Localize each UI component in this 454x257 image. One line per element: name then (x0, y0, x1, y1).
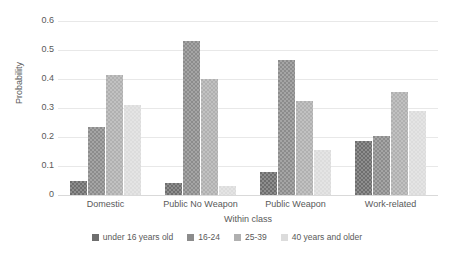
bar[interactable] (124, 105, 141, 195)
legend-item[interactable]: 40 years and older (281, 232, 362, 242)
bar[interactable] (70, 181, 87, 196)
x-axis-title: Within class (58, 214, 438, 224)
y-axis-tick-label: 0.2 (10, 132, 54, 141)
legend: under 16 years old16-2425-3940 years and… (0, 232, 454, 242)
legend-label: 40 years and older (292, 232, 362, 242)
legend-swatch-icon (187, 234, 194, 241)
x-axis-tick-label: Domestic (58, 199, 153, 209)
y-axis-tick-label: 0.3 (10, 103, 54, 112)
bar[interactable] (373, 136, 390, 195)
legend-item[interactable]: 16-24 (187, 232, 220, 242)
bar[interactable] (278, 60, 295, 195)
x-axis-tick-label: Public No Weapon (153, 199, 248, 209)
legend-swatch-icon (92, 234, 99, 241)
legend-item[interactable]: 25-39 (234, 232, 267, 242)
bar-group-bars (343, 21, 438, 195)
y-axis-tick-label: 0.4 (10, 74, 54, 83)
legend-label: 16-24 (198, 232, 220, 242)
bar-group (153, 21, 248, 195)
legend-label: 25-39 (245, 232, 267, 242)
axis-baseline (58, 195, 438, 196)
bar[interactable] (183, 41, 200, 195)
legend-swatch-icon (234, 234, 241, 241)
y-axis-tick-label: 0 (10, 190, 54, 199)
bar-group (343, 21, 438, 195)
y-axis-tick-label: 0.6 (10, 16, 54, 25)
bar[interactable] (260, 172, 277, 195)
bar-group (58, 21, 153, 195)
bar[interactable] (219, 186, 236, 195)
y-axis-tick-label: 0.5 (10, 45, 54, 54)
x-axis-tick-label: Work-related (343, 199, 438, 209)
y-axis-tick-labels: 00.10.20.30.40.50.6 (8, 21, 54, 195)
x-axis-tick-label: Public Weapon (248, 199, 343, 209)
bar-group-bars (248, 21, 343, 195)
x-axis-tick-labels: DomesticPublic No WeaponPublic WeaponWor… (58, 199, 438, 209)
bar[interactable] (296, 101, 313, 195)
legend-item[interactable]: under 16 years old (92, 232, 173, 242)
bar[interactable] (106, 75, 123, 195)
bar[interactable] (314, 150, 331, 195)
bar-group-bars (58, 21, 153, 195)
bar-groups (58, 21, 438, 195)
bar[interactable] (409, 111, 426, 195)
y-axis-tick-label: 0.1 (10, 161, 54, 170)
bar[interactable] (391, 92, 408, 195)
bar-group-bars (153, 21, 248, 195)
bar[interactable] (165, 183, 182, 195)
bar[interactable] (88, 127, 105, 195)
bar-group (248, 21, 343, 195)
bar-chart: Probability 00.10.20.30.40.50.6 Domestic… (0, 0, 454, 257)
legend-label: under 16 years old (103, 232, 173, 242)
bar[interactable] (201, 79, 218, 195)
bar[interactable] (355, 141, 372, 195)
legend-swatch-icon (281, 234, 288, 241)
